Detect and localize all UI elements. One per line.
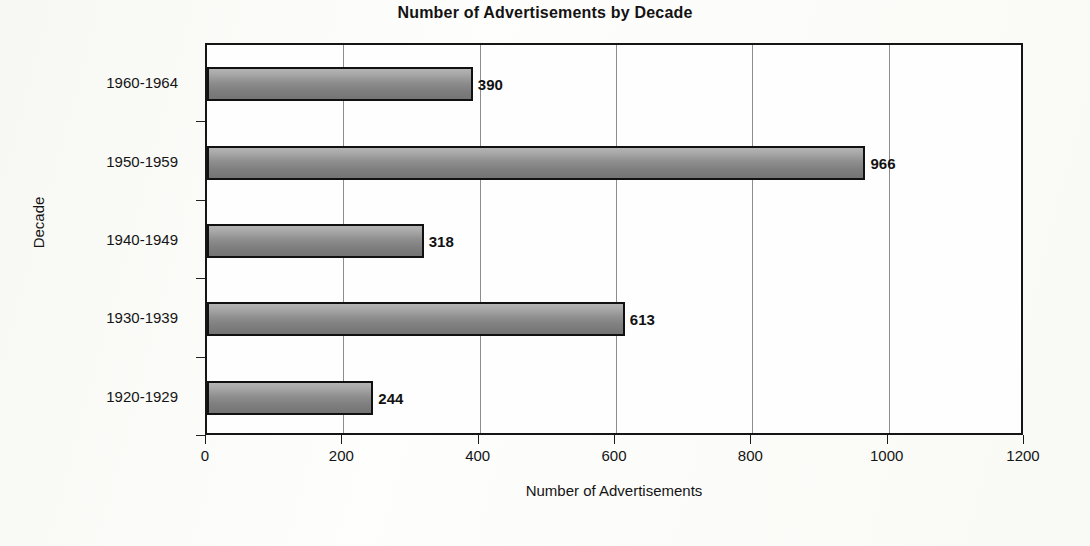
- bar[interactable]: 966: [207, 146, 865, 180]
- y-axis-tick: [196, 200, 205, 201]
- y-axis-tick-label: 1930-1939: [106, 309, 178, 326]
- x-axis-tick: [1023, 435, 1024, 444]
- x-axis-tick-label: 1000: [870, 447, 903, 464]
- x-axis-ticks: [205, 435, 1023, 445]
- y-axis-labels: 1960-19641950-19591940-19491930-19391920…: [0, 43, 196, 435]
- y-axis-tick-label: 1960-1964: [106, 74, 178, 91]
- x-axis-tick-label: 400: [465, 447, 490, 464]
- bar[interactable]: 390: [207, 67, 473, 101]
- x-axis-tick-label: 800: [738, 447, 763, 464]
- y-axis-tick-label: 1920-1929: [106, 387, 178, 404]
- x-axis-tick: [478, 435, 479, 444]
- x-axis-tick-label: 1200: [1006, 447, 1039, 464]
- y-axis-tick: [196, 121, 205, 122]
- y-axis-tick: [196, 435, 205, 436]
- plot-area: 390966318613244: [205, 43, 1023, 435]
- x-axis-tick-label: 600: [601, 447, 626, 464]
- y-axis-tick-label: 1950-1959: [106, 152, 178, 169]
- bar[interactable]: 318: [207, 224, 424, 258]
- y-axis-tick: [196, 278, 205, 279]
- bar-group: 244: [207, 378, 1021, 418]
- x-axis-labels: 020040060080010001200: [205, 447, 1023, 471]
- bar-value-label: 244: [378, 389, 403, 406]
- x-axis-tick: [341, 435, 342, 444]
- bar-value-label: 613: [630, 311, 655, 328]
- bar-group: 613: [207, 299, 1021, 339]
- x-axis-tick: [750, 435, 751, 444]
- bar-group: 966: [207, 143, 1021, 183]
- x-axis-tick: [205, 435, 206, 444]
- bars-layer: 390966318613244: [207, 45, 1021, 433]
- bar-value-label: 318: [429, 233, 454, 250]
- bar-chart: Number of Advertisements by Decade Decad…: [0, 0, 1090, 546]
- x-axis-title: Number of Advertisements: [205, 482, 1023, 499]
- bar-group: 390: [207, 64, 1021, 104]
- y-axis-tick: [196, 357, 205, 358]
- x-axis-tick: [887, 435, 888, 444]
- bar-group: 318: [207, 221, 1021, 261]
- bar-value-label: 966: [870, 154, 895, 171]
- chart-title: Number of Advertisements by Decade: [0, 4, 1090, 22]
- x-axis-tick-label: 0: [201, 447, 209, 464]
- bar[interactable]: 244: [207, 381, 373, 415]
- y-axis-tick-label: 1940-1949: [106, 231, 178, 248]
- x-axis-tick-label: 200: [329, 447, 354, 464]
- x-axis-tick: [614, 435, 615, 444]
- bar-value-label: 390: [478, 76, 503, 93]
- bar[interactable]: 613: [207, 302, 625, 336]
